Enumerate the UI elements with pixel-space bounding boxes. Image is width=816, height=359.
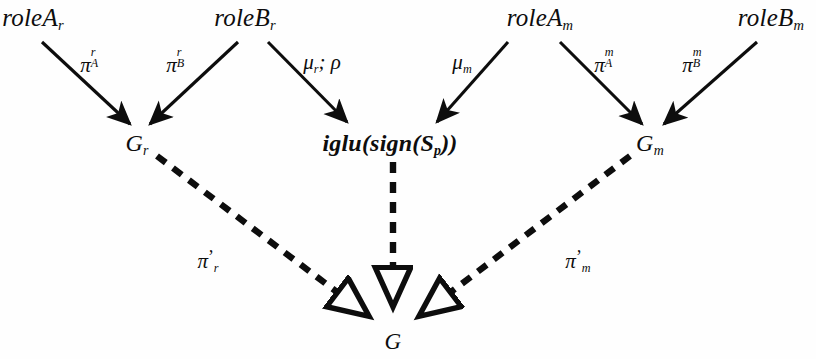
edge-label-subscript: A bbox=[91, 57, 98, 69]
node-g-m-subscript: m bbox=[654, 143, 664, 158]
node-g-final: G bbox=[385, 330, 402, 353]
node-g-m-base: G bbox=[636, 130, 654, 156]
G_m-to-G bbox=[422, 156, 630, 314]
node-iglu-subscript: p bbox=[434, 143, 441, 158]
node-g-final-base: G bbox=[385, 329, 402, 354]
node-role-b-m-base: roleB bbox=[738, 4, 794, 31]
node-role-b-m: roleBm bbox=[738, 5, 804, 30]
edge-label-subscript: m bbox=[582, 260, 591, 274]
edge-label-supsub: mB bbox=[693, 51, 706, 72]
roleB_m-to-G_m bbox=[664, 42, 757, 124]
edge-label-subscript: A bbox=[605, 57, 612, 69]
edge-label-roleA_m-to-G_m: πmA bbox=[594, 51, 618, 76]
node-iglu-sign-sp: iglu(sign(Sp)) bbox=[322, 131, 457, 155]
dashed-edge-group bbox=[157, 156, 630, 314]
node-role-b-r: roleBr bbox=[214, 5, 275, 30]
node-role-a-r: roleAr bbox=[2, 5, 63, 30]
edge-label-base: π bbox=[80, 53, 91, 77]
edge-label-base: π bbox=[594, 53, 605, 77]
edge-label-G_r-to-G: π’r bbox=[197, 251, 218, 272]
edge-label-subscript: B bbox=[693, 57, 700, 69]
node-role-a-m: roleAm bbox=[507, 5, 573, 30]
node-role-b-r-base: roleB bbox=[214, 4, 270, 31]
node-g-r-base: G bbox=[125, 130, 143, 156]
edge-label-base: μ bbox=[303, 50, 314, 74]
edge-label-subscript: m bbox=[463, 61, 472, 75]
node-role-a-r-subscript: r bbox=[58, 17, 64, 33]
edge-label-base: π bbox=[166, 53, 177, 77]
edge-label-supsub: rA bbox=[91, 51, 104, 72]
edge-label-subscript: B bbox=[177, 57, 184, 69]
node-iglu-open-s: (S bbox=[412, 130, 434, 156]
diagram-canvas: roleAr roleBr roleAm roleBm Gr iglu(sign… bbox=[0, 0, 816, 359]
node-role-a-r-base: roleA bbox=[2, 4, 58, 31]
node-iglu-sign: sign bbox=[370, 130, 412, 156]
edge-label-subscript: r bbox=[214, 260, 219, 274]
edge-label-base: μ bbox=[452, 50, 463, 74]
edge-label-roleA_r-to-G_r: πrA bbox=[80, 51, 104, 76]
G_r-to-G bbox=[157, 156, 366, 314]
edge-label-extra: ; ρ bbox=[318, 50, 340, 74]
node-g-m: Gm bbox=[636, 131, 664, 155]
node-role-a-m-subscript: m bbox=[562, 17, 573, 33]
solid-edge-group bbox=[42, 42, 757, 124]
node-role-a-m-base: roleA bbox=[507, 4, 563, 31]
node-g-r-subscript: r bbox=[143, 143, 149, 158]
node-iglu-suffix: )) bbox=[441, 130, 457, 156]
node-g-r: Gr bbox=[125, 131, 148, 155]
edge-label-roleB_r-to-iglu: μr; ρ bbox=[303, 52, 341, 73]
edge-label-G_m-to-G: π’m bbox=[565, 251, 590, 272]
edge-label-base: π bbox=[197, 249, 208, 273]
edge-label-base: π bbox=[682, 53, 693, 77]
edge-label-supsub: rB bbox=[177, 51, 190, 72]
edge-label-subscript: r bbox=[314, 61, 319, 75]
edge-label-base: π bbox=[565, 249, 576, 273]
edge-label-roleA_m-to-iglu: μm bbox=[452, 52, 471, 73]
edge-label-roleB_r-to-G_r: πrB bbox=[166, 51, 190, 76]
node-role-b-r-subscript: r bbox=[270, 17, 276, 33]
roleB_r-to-G_r bbox=[150, 42, 238, 124]
roleA_m-to-iglu bbox=[437, 42, 508, 122]
node-role-b-m-subscript: m bbox=[793, 17, 804, 33]
edge-label-supsub: mA bbox=[605, 51, 618, 72]
edge-label-roleB_m-to-G_m: πmB bbox=[682, 51, 706, 76]
node-iglu-prefix: iglu( bbox=[322, 130, 370, 156]
